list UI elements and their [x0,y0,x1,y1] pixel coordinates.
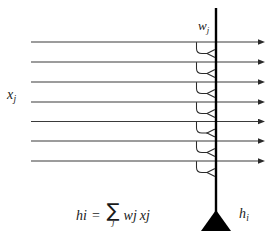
formula-equals: = [92,208,100,224]
diagram-canvas [0,0,271,237]
formula-input-subscript: j [146,208,150,223]
weight-label-wj: wj [198,19,209,35]
weight-label-base: w [198,18,207,33]
neuron-diagram-figure: xj wj hi hi = ∑ j wj xj [0,0,271,237]
synapse-icon [197,142,215,157]
synapse-icon [197,43,215,58]
input-lines-group [31,42,258,161]
synapse-icon [197,162,215,177]
input-label-xj: xj [7,88,16,105]
synapse-group [197,43,215,177]
formula-lhs: hi [76,208,87,224]
sigma-index: j [112,218,115,227]
synapse-icon [197,83,215,98]
formula-weight-subscript: j [133,208,137,223]
axon-terminal-triangle [201,210,231,231]
output-label-subscript: i [246,213,249,223]
output-label-hi: hi [239,207,249,224]
formula-weight-base: w [124,208,133,223]
formula-input-term: xj [140,208,150,224]
formula-weight-term: wj [124,208,137,224]
synapse-icon [197,103,215,118]
input-label-subscript: j [13,94,16,104]
weight-label-subscript: j [207,25,210,35]
formula-summation: ∑ j [107,202,120,227]
summation-formula: hi = ∑ j wj xj [76,203,153,228]
formula-lhs-base: h [76,208,83,223]
synapse-icon [197,63,215,78]
synapse-icon [197,122,215,137]
output-label-base: h [239,206,246,221]
formula-lhs-subscript: i [83,208,87,223]
